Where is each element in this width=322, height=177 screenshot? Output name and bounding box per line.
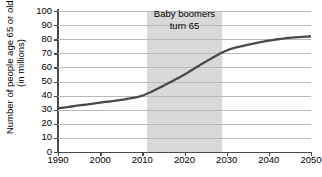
x-tick-label: 2000: [80, 155, 120, 165]
y-tick-mark: [54, 96, 57, 97]
y-tick-mark: [54, 124, 57, 125]
plot-area: [58, 11, 311, 152]
x-tick-mark: [58, 152, 59, 156]
x-tick-mark: [100, 152, 101, 156]
baby-boomers-label-line1: Baby boomers: [135, 8, 235, 20]
y-tick-label: 20: [18, 118, 52, 128]
x-tick-label: 2040: [249, 155, 289, 165]
y-tick-label: 60: [18, 62, 52, 72]
y-tick-mark: [54, 25, 57, 26]
x-tick-label: 2030: [207, 155, 247, 165]
y-tick-label: 10: [18, 132, 52, 142]
y-axis-title-line1: Number of people age 65 or older: [4, 0, 15, 136]
chart-container: Number of people age 65 or older (in mil…: [0, 0, 322, 177]
x-tick-mark: [227, 152, 228, 156]
y-tick-mark: [54, 39, 57, 40]
y-tick-label: 50: [18, 76, 52, 86]
y-tick-mark: [54, 138, 57, 139]
x-tick-label: 2010: [122, 155, 162, 165]
baby-boomers-label-line2: turn 65: [135, 20, 235, 32]
x-tick-label: 1990: [38, 155, 78, 165]
y-tick-label: 80: [18, 34, 52, 44]
x-tick-mark: [185, 152, 186, 156]
x-tick-mark: [311, 152, 312, 156]
data-series-line: [58, 11, 311, 152]
y-tick-label: 30: [18, 104, 52, 114]
x-tick-mark: [142, 152, 143, 156]
baby-boomers-label: Baby boomers turn 65: [135, 8, 235, 31]
x-tick-label: 2020: [165, 155, 205, 165]
y-tick-mark: [54, 11, 57, 12]
y-tick-label: 40: [18, 90, 52, 100]
y-tick-mark: [54, 110, 57, 111]
y-tick-mark: [54, 67, 57, 68]
y-tick-label: 70: [18, 48, 52, 58]
x-tick-mark: [269, 152, 270, 156]
x-tick-label: 2050: [291, 155, 322, 165]
y-tick-mark: [54, 53, 57, 54]
y-tick-label: 90: [18, 20, 52, 30]
y-tick-mark: [54, 82, 57, 83]
y-tick-label: 100: [18, 6, 52, 16]
